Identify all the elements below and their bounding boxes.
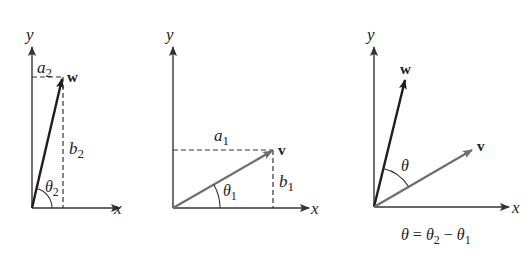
svg-text:v: v — [278, 142, 286, 158]
vector-v-label: v — [278, 142, 286, 158]
svg-text:a1: a1 — [214, 126, 229, 148]
vector-w-label: w — [67, 69, 78, 85]
a1-label: a — [214, 126, 223, 145]
x-axis-label: x — [113, 199, 122, 218]
panel-v: y x v a1 b1 θ1 — [164, 25, 319, 218]
svg-text:a2: a2 — [37, 58, 52, 80]
a2-label: a — [37, 58, 46, 77]
theta1-label: θ — [223, 182, 231, 199]
svg-text:w: w — [400, 61, 411, 77]
y-axis-label: y — [365, 25, 375, 44]
theta2-subscript: 2 — [53, 185, 59, 199]
svg-text:b2: b2 — [69, 139, 84, 161]
svg-text:y: y — [365, 25, 375, 44]
theta1-subscript: 1 — [231, 189, 237, 203]
svg-text:x: x — [310, 199, 319, 218]
x-axis-label: x — [511, 198, 520, 217]
vector-v-arrow — [173, 151, 272, 208]
vector-w-label: w — [400, 61, 411, 77]
svg-text:θ1: θ1 — [223, 182, 237, 203]
svg-text:x: x — [113, 199, 122, 218]
x-axis-label: x — [310, 199, 319, 218]
theta-label: θ — [401, 157, 409, 174]
a1-subscript: 1 — [223, 133, 230, 148]
b1-subscript: 1 — [288, 179, 295, 194]
svg-text:w: w — [67, 69, 78, 85]
y-axis-label: y — [24, 25, 34, 44]
y-axis-label: y — [164, 25, 174, 44]
vector-v-arrow — [374, 150, 472, 207]
svg-text:θ: θ — [401, 157, 409, 174]
vector-v-label: v — [477, 138, 485, 154]
svg-text:x: x — [511, 198, 520, 217]
theta2-label: θ — [45, 178, 53, 195]
angle-arc-theta1 — [214, 185, 220, 209]
vector-angle-diagram: y x w a2 b2 θ2 y x v a1 b1 θ1 y x w v θ … — [0, 0, 532, 258]
b2-label: b — [69, 139, 78, 158]
panel-w: y x w a2 b2 θ2 — [24, 25, 122, 218]
a2-subscript: 2 — [46, 65, 53, 80]
b2-subscript: 2 — [78, 146, 85, 161]
svg-text:y: y — [164, 25, 174, 44]
svg-text:v: v — [477, 138, 485, 154]
svg-text:y: y — [24, 25, 34, 44]
vector-w-arrow — [374, 80, 405, 207]
angle-formula-caption: θ=θ2−θ1 — [401, 226, 471, 247]
b1-label: b — [279, 172, 288, 191]
panel-angle-between: y x w v θ θ=θ2−θ1 — [365, 25, 520, 247]
svg-text:b1: b1 — [279, 172, 294, 194]
svg-text:θ2: θ2 — [45, 178, 59, 199]
